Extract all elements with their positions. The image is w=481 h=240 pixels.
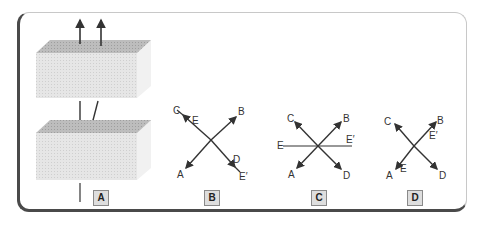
panel-b-label-b: B <box>238 107 245 117</box>
panel-c-label-a: A <box>288 170 295 180</box>
panel-label-c: C <box>311 190 327 206</box>
panel-b-label-e: E <box>192 116 199 126</box>
panel-c-label-c: C <box>287 114 294 124</box>
panel-c-label-b: B <box>343 114 350 124</box>
panel-c-label-d: D <box>343 171 350 181</box>
panel-b-label-c: C <box>173 106 180 116</box>
panel-b-label-d: D <box>233 155 240 165</box>
panel-c-vectors <box>283 122 352 169</box>
panel-d-label-c: C <box>384 117 391 127</box>
panel-a-upper-block <box>36 40 151 98</box>
panel-c-label-e: E <box>277 141 284 151</box>
panel-b-vectors <box>177 110 240 172</box>
panel-d-label-b: B <box>437 116 444 126</box>
panel-d-label-e: E <box>400 164 407 174</box>
panel-b-label-a: A <box>177 170 184 180</box>
panel-a-lower-block <box>36 120 151 180</box>
panel-d-label-d: D <box>439 171 446 181</box>
panel-label-b: B <box>204 190 220 206</box>
panel-label-a: A <box>93 190 109 206</box>
panel-c-label-e-prime: E′ <box>346 135 355 145</box>
panel-label-d: D <box>407 190 423 206</box>
panel-d-label-e-prime: E′ <box>429 131 438 141</box>
panel-d-label-a: A <box>386 171 393 181</box>
panel-b-label-e-prime: E′ <box>239 172 248 182</box>
